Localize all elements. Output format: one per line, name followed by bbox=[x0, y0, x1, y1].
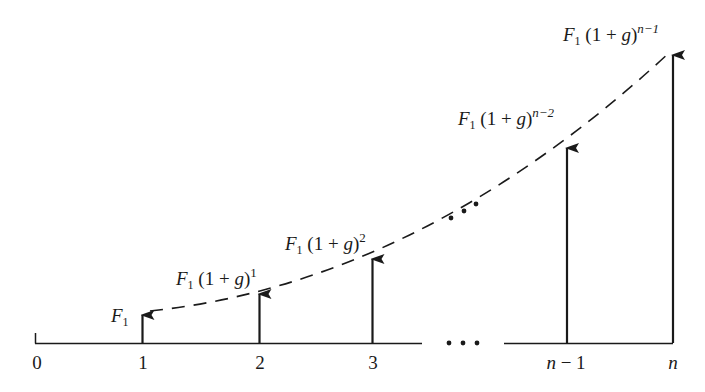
label-growth: (1 + bbox=[194, 268, 235, 289]
label-growth-var: g bbox=[234, 268, 244, 289]
axis-gap-ellipsis bbox=[447, 341, 480, 346]
tick-label-rest: − 1 bbox=[556, 352, 586, 373]
label-growth: (1 + bbox=[476, 108, 517, 129]
tick-label-n: n bbox=[668, 353, 678, 372]
label-growth-var: g bbox=[343, 233, 353, 254]
label-exponent: n−2 bbox=[532, 105, 554, 120]
label-growth-var: g bbox=[621, 24, 631, 45]
tick-label-2: 2 bbox=[255, 353, 265, 372]
cash-flow-label-1: F1 bbox=[111, 306, 129, 325]
cash-flow-label-n: F1 (1 + g)n−1 bbox=[563, 25, 659, 44]
label-base: F bbox=[458, 108, 470, 129]
label-base: F bbox=[176, 268, 188, 289]
tick-label-text: 0 bbox=[32, 352, 42, 373]
tick-label-text: 2 bbox=[255, 352, 265, 373]
cash-flow-timeline-diagram bbox=[0, 0, 705, 392]
label-exponent: 1 bbox=[250, 265, 257, 280]
tick-label-var: n bbox=[546, 352, 556, 373]
label-growth: (1 + bbox=[303, 233, 344, 254]
label-base: F bbox=[563, 24, 575, 45]
tick-label-text: 1 bbox=[138, 352, 148, 373]
tick-label-var: n bbox=[668, 352, 678, 373]
label-exponent: 2 bbox=[359, 230, 366, 245]
tick-label-text: 3 bbox=[368, 352, 378, 373]
cash-flow-label-2: F1 (1 + g)1 bbox=[176, 269, 257, 288]
label-base: F bbox=[111, 305, 123, 326]
tick-label-3: 3 bbox=[368, 353, 378, 372]
label-exponent: n−1 bbox=[637, 21, 659, 36]
tick-label-1: 1 bbox=[138, 353, 148, 372]
tick-label-n-minus-1: n − 1 bbox=[546, 353, 585, 372]
tick-label-0: 0 bbox=[32, 353, 42, 372]
label-growth: (1 + bbox=[581, 24, 622, 45]
time-axis bbox=[35, 333, 673, 345]
cash-flow-label-3: F1 (1 + g)2 bbox=[285, 234, 366, 253]
curve-ellipsis bbox=[449, 202, 479, 221]
label-sub: 1 bbox=[123, 315, 129, 329]
cash-flow-label-n-minus-1: F1 (1 + g)n−2 bbox=[458, 109, 554, 128]
label-growth-var: g bbox=[516, 108, 526, 129]
label-base: F bbox=[285, 233, 297, 254]
